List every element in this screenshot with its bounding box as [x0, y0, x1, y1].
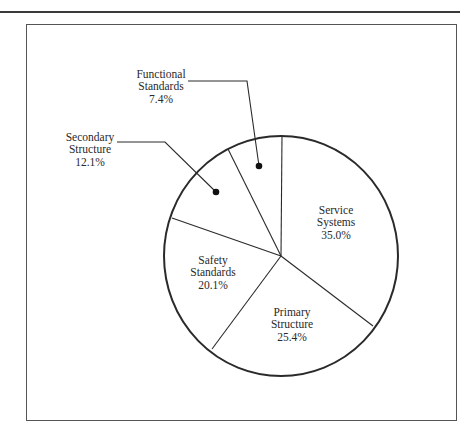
label-line: Standards — [190, 266, 235, 278]
label-line: Primary — [271, 306, 313, 318]
label-percent: 25.4% — [271, 331, 313, 343]
label-line: Systems — [317, 216, 355, 228]
label-line: Service — [317, 204, 355, 216]
label-line: Structure — [271, 318, 313, 330]
label-secondary-structure: Secondary Structure 12.1% — [66, 131, 115, 168]
label-line: Secondary — [66, 131, 115, 143]
label-line: Safety — [190, 254, 235, 266]
label-line: Functional — [136, 68, 185, 80]
label-percent: 7.4% — [136, 93, 185, 105]
label-service-systems: Service Systems 35.0% — [317, 204, 355, 241]
label-percent: 35.0% — [317, 229, 355, 241]
dot-secondary-structure — [213, 189, 220, 196]
label-primary-structure: Primary Structure 25.4% — [271, 306, 313, 343]
label-functional-standards: Functional Standards 7.4% — [136, 68, 185, 105]
dot-functional-standards — [256, 163, 263, 170]
label-line: Structure — [66, 143, 115, 155]
label-percent: 12.1% — [66, 156, 115, 168]
label-percent: 20.1% — [190, 279, 235, 291]
pie-chart — [0, 0, 472, 440]
label-safety-standards: Safety Standards 20.1% — [190, 254, 235, 291]
label-line: Standards — [136, 80, 185, 92]
